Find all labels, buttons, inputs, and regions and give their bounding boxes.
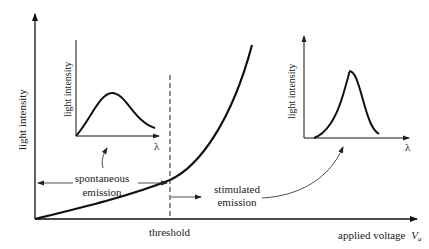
stimulated-pointer-arrow: [262, 147, 343, 198]
stimulated-emission-label: stimulated emission: [171, 183, 260, 208]
inset-right-x-label: λ: [405, 141, 411, 153]
svg-text:spontaneous: spontaneous: [75, 172, 129, 184]
svg-text:emission: emission: [217, 196, 257, 208]
spontaneous-pointer-arrow: [102, 148, 107, 168]
main-y-axis-label: light intensity: [16, 89, 28, 150]
inset-spontaneous-spectrum: light intensity λ: [62, 40, 160, 152]
threshold-label: threshold: [149, 226, 190, 238]
inset-left-x-label: λ: [154, 140, 160, 152]
svg-text:stimulated: stimulated: [214, 183, 260, 195]
spontaneous-emission-label: spontaneous emission: [38, 172, 167, 198]
inset-stimulated-spectrum: light intensity λ: [286, 36, 411, 153]
svg-text:emission: emission: [82, 186, 122, 198]
main-x-axis-label: applied voltage Va: [338, 229, 422, 243]
inset-right-y-label: light intensity: [286, 64, 297, 119]
inset-left-y-label: light intensity: [62, 62, 73, 117]
diagram: light intensity applied voltage Va thres…: [0, 0, 429, 249]
